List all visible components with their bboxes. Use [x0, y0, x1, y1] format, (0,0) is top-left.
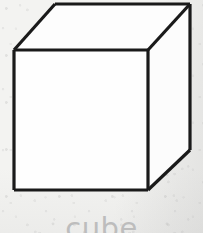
cube-illustration	[0, 0, 203, 233]
cube-flashcard: cube	[0, 0, 203, 233]
figure-caption: cube	[0, 214, 203, 233]
cube-front-face	[14, 50, 148, 190]
